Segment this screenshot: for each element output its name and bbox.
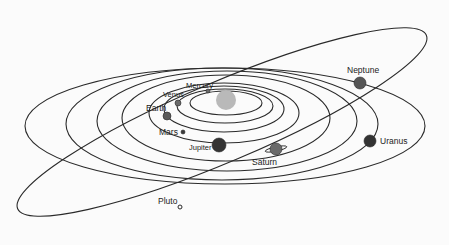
neptune-icon [354, 77, 366, 89]
mars-label: Mars [159, 127, 178, 137]
sun-group [216, 90, 236, 110]
uranus-label: Uranus [380, 136, 407, 146]
planet-pluto: Pluto [158, 196, 182, 209]
saturn-icon [270, 143, 282, 155]
earth-label: Earth [146, 103, 167, 113]
sun-icon [216, 90, 236, 110]
planet-uranus: Uranus [364, 135, 407, 147]
mercury-label: Mercury [186, 81, 213, 90]
planet-group: MercuryVenusEarthMarsJupiterSaturnUranus… [146, 65, 407, 209]
solar-system-diagram: MercuryVenusEarthMarsJupiterSaturnUranus… [0, 0, 449, 245]
venus-icon [175, 100, 181, 106]
orbit-canvas: MercuryVenusEarthMarsJupiterSaturnUranus… [0, 0, 449, 245]
orbit-jupiter [122, 75, 330, 161]
orbit-uranus [66, 68, 378, 180]
uranus-icon [364, 135, 376, 147]
mars-icon [181, 130, 185, 134]
neptune-label: Neptune [347, 65, 379, 75]
planet-jupiter: Jupiter [189, 138, 226, 152]
jupiter-label: Jupiter [189, 143, 212, 152]
venus-label: Venus [163, 90, 184, 99]
earth-icon [163, 112, 171, 120]
saturn-label: Saturn [252, 157, 277, 167]
planet-neptune: Neptune [347, 65, 379, 89]
jupiter-icon [212, 138, 226, 152]
pluto-icon [178, 205, 182, 209]
pluto-label: Pluto [158, 196, 178, 206]
planet-mars: Mars [159, 127, 185, 137]
planet-saturn: Saturn [252, 143, 287, 167]
